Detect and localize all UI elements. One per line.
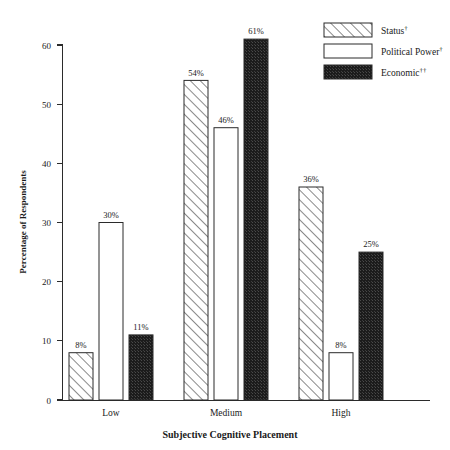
bar-label-low-economic: 11% (133, 322, 148, 332)
bar-label-high-economic: 25% (363, 239, 379, 249)
y-tick-label-60: 60 (42, 41, 52, 51)
bar-label-medium-political-power: 46% (218, 115, 234, 125)
x-tick-label-high: High (332, 408, 351, 418)
bar-low-economic[interactable] (129, 335, 153, 400)
bar-label-medium-economic: 61% (248, 26, 264, 36)
bar-label-low-status: 8% (75, 340, 86, 350)
bar-label-medium-status: 54% (188, 68, 204, 78)
y-tick-label-20: 20 (42, 277, 52, 287)
y-axis-title: Percentage of Respondents (18, 170, 28, 274)
x-tick-label-low: Low (102, 408, 120, 418)
legend-item-status[interactable]: Status† (324, 23, 408, 37)
bar-medium-political-power[interactable] (214, 128, 238, 400)
bar-chart-figure: 60 50 40 30 20 10 0 Percentage of Respon… (0, 0, 450, 450)
white-swatch-icon (324, 44, 372, 58)
legend-label-status: Status† (381, 24, 408, 36)
x-tick-label-medium: Medium (210, 408, 243, 418)
bar-high-status[interactable] (299, 187, 323, 400)
bar-high-economic[interactable] (359, 252, 383, 400)
y-tick-label-50: 50 (42, 100, 52, 110)
y-tick-label-10: 10 (42, 336, 52, 346)
bar-label-low-political-power: 30% (103, 210, 119, 220)
legend-item-political-power[interactable]: Political Power† (324, 44, 443, 58)
bar-high-political-power[interactable] (329, 353, 353, 400)
bar-label-high-status: 36% (303, 174, 319, 184)
bar-medium-economic[interactable] (244, 39, 268, 400)
hatch-swatch-icon (324, 23, 372, 37)
bar-medium-status[interactable] (184, 80, 208, 400)
legend-label-political-power: Political Power† (381, 45, 443, 57)
chart-svg: 60 50 40 30 20 10 0 Percentage of Respon… (0, 0, 450, 450)
bar-label-high-political-power: 8% (335, 340, 346, 350)
y-tick-label-0: 0 (47, 396, 52, 406)
x-axis-title: Subjective Cognitive Placement (163, 429, 299, 440)
y-tick-label-30: 30 (42, 218, 52, 228)
dark-swatch-icon (324, 65, 372, 79)
y-tick-label-40: 40 (42, 159, 52, 169)
bar-low-political-power[interactable] (99, 223, 123, 401)
bar-low-status[interactable] (69, 353, 93, 400)
